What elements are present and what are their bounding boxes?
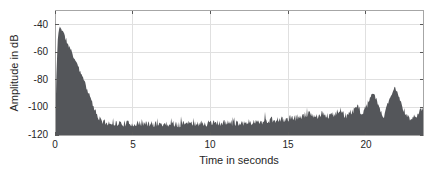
x-tick-label: 5 [118,139,148,151]
y-tick-label: -100 [0,101,48,113]
x-axis-label: Time in seconds [199,154,279,166]
x-tick-label: 20 [351,139,381,151]
y-tick-label: -80 [0,74,48,86]
amplitude-vs-time-figure: Amplitude in dB Time in seconds -40-60-8… [0,0,442,170]
x-tick-label: 15 [273,139,303,151]
y-tick-label: -60 [0,46,48,58]
x-tick-label: 10 [195,139,225,151]
y-tick-label: -40 [0,19,48,31]
x-tick-label: 0 [40,139,70,151]
